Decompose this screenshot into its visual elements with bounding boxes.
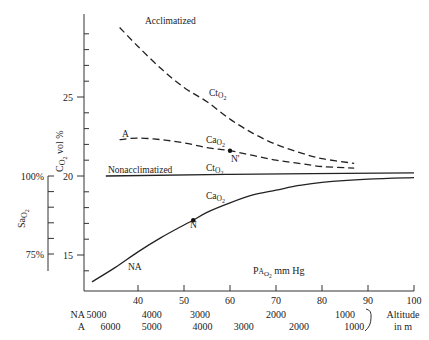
labels: 152025405060708090100100%75%CO2 vol %SaO…: [16, 16, 422, 332]
x-tick-label: 50: [179, 295, 189, 306]
altitude-a-value: 5000: [142, 321, 162, 332]
altitude-na-value: 3000: [190, 309, 210, 320]
x-tick-label: 90: [363, 295, 373, 306]
label-na: NA: [128, 262, 142, 272]
altitude-na-value: 1000: [335, 309, 355, 320]
altitude-row-na-label: NA: [71, 309, 86, 320]
label-ct-nonacclimatized: CtO2: [206, 163, 223, 176]
point-marker: [228, 149, 232, 153]
altitude-title: Altitude: [387, 309, 420, 320]
y2-tick-100: 100%: [21, 171, 44, 182]
altitude-na-value: 4000: [142, 309, 162, 320]
label-ca-acclimatized: CaO2: [206, 135, 225, 148]
altitude-a-value: 4000: [192, 321, 212, 332]
label-ca-nonacclimatized: CaO2: [206, 191, 225, 204]
x-tick-label: 80: [317, 295, 327, 306]
y2-axis-title: SaO2: [16, 209, 30, 228]
x-tick-label: 40: [133, 295, 143, 306]
chart: 152025405060708090100100%75%CO2 vol %SaO…: [0, 0, 429, 340]
label-ct-acclimatized: CtO2: [209, 88, 226, 101]
curve-acclimatized-cto2: [120, 27, 355, 163]
label-a: A: [122, 129, 129, 139]
label-acclimatized: Acclimatized: [145, 16, 196, 26]
altitude-row-a-label: A: [78, 321, 86, 332]
altitude-a-value: 6000: [100, 321, 120, 332]
y-tick-label: 15: [63, 250, 73, 261]
x-tick-label: 70: [271, 295, 281, 306]
y2-tick-75: 75%: [26, 249, 44, 260]
label-n-prime: N': [231, 154, 240, 164]
altitude-na-value: 5000: [87, 309, 107, 320]
altitude-a-value: 2000: [289, 321, 309, 332]
altitude-unit: in m: [394, 321, 412, 332]
altitude-a-value: 3000: [234, 321, 254, 332]
y-axis-title: CO2 vol %: [54, 130, 68, 172]
x-tick-label: 60: [225, 295, 235, 306]
altitude-na-value: 2000: [266, 309, 286, 320]
x-axis-title: PAO2 mm Hg: [253, 265, 305, 279]
label-nonacclimatized: Nonacclimatized: [108, 165, 173, 175]
label-n: N: [190, 220, 197, 230]
altitude-brace: [365, 309, 371, 331]
y-tick-label: 25: [63, 92, 73, 103]
x-tick-label: 100: [407, 295, 422, 306]
altitude-a-value: 1000: [344, 321, 364, 332]
curves: [92, 27, 414, 281]
